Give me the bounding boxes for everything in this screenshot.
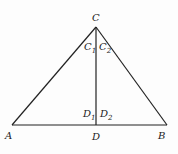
diagram-canvas: C A B D C1 C2 D1 D2 — [0, 0, 178, 154]
label-b: B — [157, 130, 165, 141]
label-c: C — [92, 12, 100, 23]
label-d2: D2 — [99, 108, 113, 122]
triangle-diagram: C A B D C1 C2 D1 D2 — [0, 0, 178, 154]
label-d: D — [91, 131, 100, 142]
label-c2: C2 — [99, 41, 112, 55]
label-c1: C1 — [84, 41, 96, 55]
label-d1: D1 — [82, 108, 96, 122]
label-a: A — [4, 130, 12, 141]
